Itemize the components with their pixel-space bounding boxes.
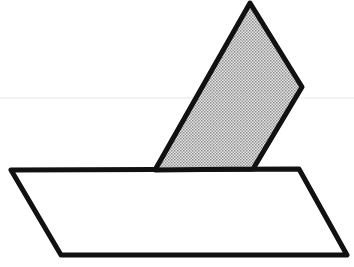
geometry-diagram (0, 0, 354, 267)
inclined-plane (155, 3, 302, 170)
base-plane (11, 169, 347, 255)
